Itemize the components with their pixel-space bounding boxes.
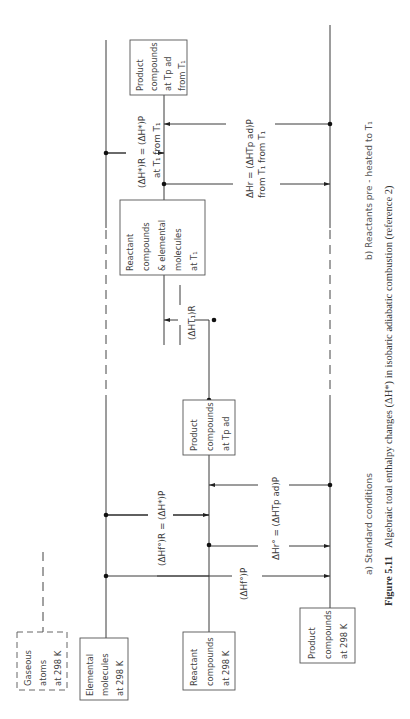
box-gaseous-atoms-line2: atoms bbox=[38, 660, 48, 686]
arrow-head-icon bbox=[324, 182, 330, 186]
arrow-head-icon bbox=[164, 318, 170, 322]
panel-a-label: a) Standard conditions bbox=[364, 473, 374, 575]
junction-dot bbox=[104, 574, 109, 579]
junction-dot bbox=[162, 182, 167, 187]
figure-number: Figure 5.11 bbox=[383, 556, 394, 606]
box-product-tpad-t1-line1: Product bbox=[135, 58, 145, 91]
junction-dot bbox=[328, 122, 333, 127]
arrow-head-icon bbox=[164, 122, 170, 126]
box-gaseous-atoms-line3: at 298 K bbox=[53, 650, 63, 686]
box-product-tpad-line2: compounds bbox=[205, 402, 215, 451]
box-product-tpad-line1: Product bbox=[189, 418, 199, 451]
eq-b-total-line2: at T₁ from T₁ bbox=[152, 122, 162, 178]
box-elemental-line1: Elemental bbox=[85, 654, 95, 696]
junction-dot bbox=[212, 318, 217, 323]
box-reactants-t1-line1: Reactant bbox=[125, 233, 135, 271]
eq-b-reaction-line1: ΔHr = (ΔHTp ad)P bbox=[245, 119, 255, 198]
eq-a-formation-products: (ΔHf°)P bbox=[239, 568, 249, 600]
box-product-tpad-t1-line2: compounds bbox=[149, 42, 159, 91]
eq-a-formation-equal: (ΔHf°)R = (ΔH*)P bbox=[157, 491, 167, 566]
box-product-tpad-t1-line3: at Tp ad bbox=[163, 56, 173, 91]
panel-b-label: b) Reactants pre - heated to T₁ bbox=[364, 121, 374, 260]
box-product-298-line2: compounds bbox=[323, 610, 333, 659]
box-product-298-line3: at 298 K bbox=[339, 623, 349, 659]
box-reactant-298-line1: Reactant bbox=[189, 648, 199, 686]
junction-dot bbox=[328, 483, 333, 488]
figure-caption: Algebraic total enthalpy changes (ΔH*) i… bbox=[383, 185, 395, 548]
box-reactants-t1-line5: at T₁ bbox=[189, 251, 199, 271]
box-elemental-line2: molecules bbox=[100, 653, 110, 696]
arrow-head-icon bbox=[324, 544, 330, 548]
arrow-head-icon bbox=[324, 574, 330, 578]
junction-dot bbox=[104, 151, 109, 156]
box-product-tpad-line3: at Tp ad bbox=[221, 416, 231, 451]
box-reactants-t1-line3: & elemental bbox=[157, 220, 167, 271]
box-reactant-298-line2: compounds bbox=[205, 637, 215, 686]
box-elemental-line3: at 298 K bbox=[115, 660, 125, 696]
junction-dot bbox=[104, 513, 109, 518]
box-reactant-298-line3: at 298 K bbox=[221, 650, 231, 686]
arrow-head-icon bbox=[209, 483, 215, 487]
eq-b-heating: (ΔHT₁)R bbox=[187, 305, 197, 340]
junction-dot bbox=[207, 543, 212, 548]
eq-b-reaction-line2: from T₁ from T₁ bbox=[257, 130, 267, 198]
arrow-head-icon bbox=[203, 513, 209, 517]
box-reactants-t1-line2: compounds bbox=[141, 222, 151, 271]
box-reactants-t1-line4: molecules bbox=[173, 228, 183, 271]
box-gaseous-atoms-line1: Gaseous bbox=[23, 650, 33, 686]
eq-a-reaction: ΔHr° = (ΔHTp ad)P bbox=[271, 477, 281, 560]
enthalpy-diagram: Gaseous atoms at 298 K Elemental molecul… bbox=[0, 0, 410, 719]
box-product-tpad-t1-line4: from T₁ bbox=[177, 60, 187, 91]
eq-b-total-line1: (ΔH*)R = (ΔH*)P bbox=[137, 116, 147, 188]
box-product-298-line1: Product bbox=[307, 626, 317, 659]
